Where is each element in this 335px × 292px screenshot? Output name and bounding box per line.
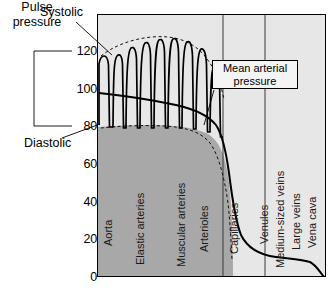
y-tick-80: 80 [71,120,97,132]
vessel-label-large-veins: Large veins [291,193,302,250]
vessel-label-aorta: Aorta [103,220,114,246]
vessel-label-vena-cava: Vena cava [307,197,318,248]
systolic-label: Systolic [40,6,83,19]
vessel-label-muscular-arteries: Muscular arteries [176,183,187,267]
vessel-label-medium-sized-veins: Medium-sized veins [275,171,286,268]
vessel-label-elastic-arteries: Elastic arteries [135,193,146,265]
diastolic-label: Diastolic [24,137,71,150]
mean-arterial-pressure-callout: Mean arterial pressure [212,60,298,89]
vessel-label-venules: Venules [259,205,270,244]
y-tick-20: 20 [71,233,97,245]
y-tick-40: 40 [71,196,97,208]
pulse-pressure-bracket [34,51,58,126]
vessel-label-arterioles: Arterioles [199,206,210,252]
y-tick-120: 120 [71,45,97,57]
vessel-label-capillaries: Capillaries [229,203,240,254]
y-tick-60: 60 [71,158,97,170]
y-tick-100: 100 [71,83,97,95]
map-callout-line1: Mean arterial [213,62,297,75]
y-tick-0: 0 [71,271,97,283]
plot-area: Aorta Elastic arteries Muscular arteries… [97,14,326,277]
blood-pressure-figure: 120 100 80 60 40 20 0 [0,0,335,292]
map-callout-line2: pressure [213,75,297,88]
